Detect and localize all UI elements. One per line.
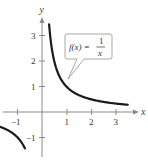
equation-callout — [65, 34, 112, 79]
x-tick-label: 3 — [114, 117, 119, 127]
y-axis-label: y — [39, 4, 45, 15]
x-axis-label: x — [140, 106, 146, 117]
equation-lhs: f(x) = — [69, 42, 90, 52]
y-axis-arrow-icon — [40, 17, 45, 23]
x-tick-label: −1 — [11, 117, 21, 127]
y-tick-label: −1 — [26, 133, 36, 143]
x-tick-label: 2 — [89, 117, 94, 127]
x-tick-label: 1 — [65, 117, 70, 127]
x-axis-arrow-icon — [133, 110, 139, 115]
y-tick-label: 2 — [31, 56, 36, 66]
y-tick-label: 1 — [31, 82, 36, 92]
curve-negative-branch — [0, 127, 25, 148]
equation-denominator: x — [97, 48, 102, 58]
equation-numerator: 1 — [99, 36, 104, 46]
y-tick-label: 3 — [31, 31, 36, 41]
function-graph: x y −1 1 2 3 3 2 1 −1 f(x) = 1 x — [0, 0, 148, 162]
